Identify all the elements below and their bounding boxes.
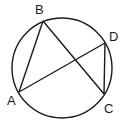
chord-bc (43, 21, 104, 94)
circle-diagram: A B C D (0, 0, 124, 123)
label-d: D (109, 29, 118, 44)
label-a: A (7, 93, 16, 108)
chord-ab (19, 21, 43, 92)
label-c: C (104, 101, 113, 116)
chord-dc (104, 43, 105, 94)
label-b: B (35, 2, 44, 17)
chord-ad (19, 43, 105, 92)
